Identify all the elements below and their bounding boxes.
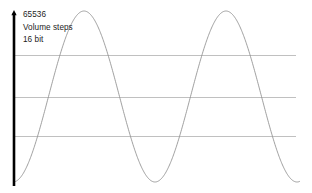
vertical-axis-group — [11, 10, 16, 186]
scale-value-label: 65536 — [23, 9, 173, 22]
axis-arrowhead-icon — [11, 10, 16, 15]
waveform-figure: 65536 Volume steps 16 bit — [0, 0, 312, 193]
scale-unit-label: Volume steps — [23, 22, 173, 35]
scale-annotation: 65536 Volume steps 16 bit — [23, 9, 173, 47]
bit-depth-label: 16 bit — [23, 34, 173, 47]
